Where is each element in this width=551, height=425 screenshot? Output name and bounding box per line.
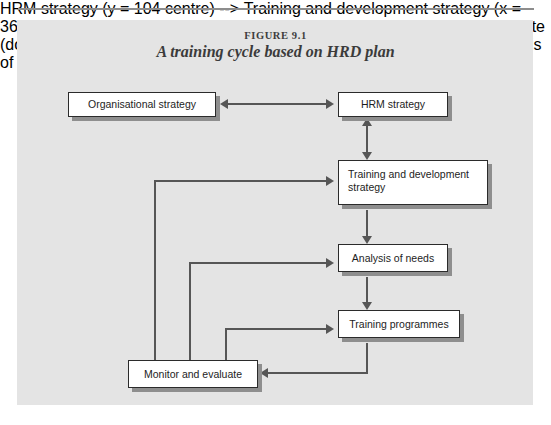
feedback-analysis-arrowhead	[326, 258, 334, 268]
edge-tds-analysis-line	[366, 210, 368, 237]
feedback-analysis-vertical	[189, 262, 191, 361]
edge-hrm-tds-arrowhead-down	[362, 152, 372, 160]
edge-hrm-tds-arrowhead-up	[362, 118, 372, 126]
top-divider-rule	[18, 8, 534, 10]
node-monitor-and-evaluate-label: Monitor and evaluate	[129, 368, 257, 381]
feedback-analysis-horizontal	[189, 262, 326, 264]
node-monitor-and-evaluate[interactable]: Monitor and evaluate	[128, 360, 258, 388]
feedback-programmes-arrowhead	[326, 324, 334, 334]
edge-org-hrm-line	[228, 103, 326, 105]
edge-analysis-programmes-line	[366, 277, 368, 303]
node-analysis-of-needs[interactable]: Analysis of needs	[338, 244, 448, 272]
feedback-tds-horizontal	[154, 180, 326, 182]
edge-analysis-programmes-arrowhead	[362, 302, 372, 310]
node-hrm-strategy-label: HRM strategy	[339, 98, 447, 111]
feedback-tds-arrowhead	[326, 176, 334, 186]
edge-programmes-monitor-vertical	[366, 343, 368, 374]
figure-container: FIGURE 9.1 A training cycle based on HRD…	[0, 0, 551, 425]
figure-panel	[17, 20, 533, 405]
node-training-and-development-strategy-label: Training and development strategy	[339, 161, 487, 194]
edge-programmes-monitor-horizontal	[268, 372, 368, 374]
edge-org-hrm-arrowhead-left	[220, 99, 228, 109]
node-organisational-strategy-label: Organisational strategy	[69, 98, 215, 111]
node-training-and-development-strategy[interactable]: Training and development strategy	[338, 160, 488, 205]
node-hrm-strategy[interactable]: HRM strategy	[338, 92, 448, 117]
node-training-programmes[interactable]: Training programmes	[338, 310, 460, 338]
edge-programmes-monitor-arrowhead	[260, 368, 268, 378]
edge-org-hrm-arrowhead-right	[326, 99, 334, 109]
node-training-programmes-label: Training programmes	[339, 318, 459, 331]
node-analysis-of-needs-label: Analysis of needs	[339, 252, 447, 265]
feedback-tds-vertical	[154, 180, 156, 361]
feedback-programmes-horizontal	[225, 328, 326, 330]
node-organisational-strategy[interactable]: Organisational strategy	[68, 92, 216, 117]
figure-number-label: FIGURE 9.1	[0, 30, 551, 41]
figure-title: A training cycle based on HRD plan	[0, 43, 551, 61]
feedback-programmes-vertical	[225, 328, 227, 361]
edge-tds-analysis-arrowhead	[362, 236, 372, 244]
edge-hrm-tds-line	[366, 125, 368, 152]
